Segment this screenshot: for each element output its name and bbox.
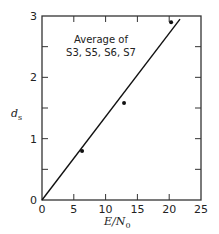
x-tick-label: 25 bbox=[194, 203, 208, 216]
chart: 0510152025 0123 Average of S3, S5, S6, S… bbox=[0, 0, 219, 234]
y-tick-label: 3 bbox=[30, 10, 37, 23]
data-point bbox=[122, 101, 126, 105]
y-tick-label: 0 bbox=[30, 194, 37, 207]
x-tick-label: 0 bbox=[39, 203, 46, 216]
annotation-line-2: S3, S5, S6, S7 bbox=[66, 47, 136, 58]
data-point bbox=[80, 149, 84, 153]
y-tick-labels: 0123 bbox=[30, 10, 37, 207]
x-tick-label: 15 bbox=[130, 203, 144, 216]
x-tick-label: 20 bbox=[162, 203, 176, 216]
y-tick-label: 2 bbox=[30, 71, 37, 84]
y-axis-label: ds bbox=[11, 107, 22, 122]
y-tick-label: 1 bbox=[30, 133, 37, 146]
annotation-line-1: Average of bbox=[74, 34, 128, 45]
x-axis-label: E/N0 bbox=[103, 215, 130, 230]
x-tick-label: 5 bbox=[70, 203, 77, 216]
data-point bbox=[169, 20, 173, 24]
